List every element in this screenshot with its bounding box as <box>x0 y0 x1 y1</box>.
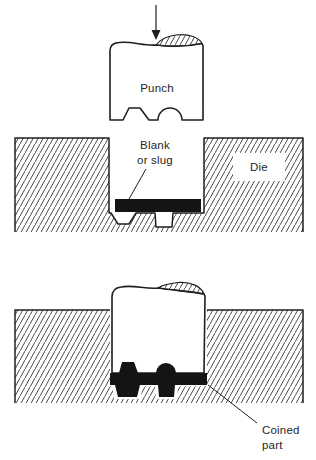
die-label-text: Die <box>250 160 268 175</box>
coined-part-label-line1: Coined <box>262 423 300 438</box>
die-label: Die <box>233 153 285 181</box>
coining-diagram-canvas <box>0 0 316 460</box>
coined-part-label-line2: part <box>262 438 300 453</box>
punch-upper-top-face-hatch <box>156 35 202 46</box>
coined-part-label: Coined part <box>262 423 300 453</box>
blank-slug-label-line2: or slug <box>137 153 173 168</box>
punch-lower <box>112 286 205 373</box>
blank-leader-line <box>129 169 146 199</box>
blank-slug-label: Blank or slug <box>137 138 173 168</box>
blank-slug-label-line1: Blank <box>137 138 173 153</box>
force-arrow-icon <box>152 5 161 40</box>
punch-label: Punch <box>140 81 174 96</box>
blank-slug <box>115 199 201 212</box>
coining-process-figure: Punch Blank or slug Die Coined part <box>0 0 316 460</box>
